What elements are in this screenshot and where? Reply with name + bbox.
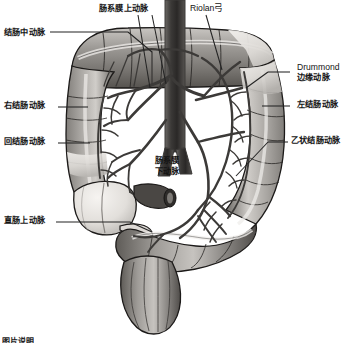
label-inferior-mesenteric-line2: 下动脉 bbox=[155, 167, 180, 177]
label-inferior-mesenteric-line1: 肠系膜 bbox=[155, 156, 180, 166]
figure-footer-caption: 图片说明 bbox=[2, 335, 34, 343]
label-left-colic-artery: 左结肠动脉 bbox=[297, 100, 338, 110]
rectum bbox=[121, 256, 181, 334]
label-riolan-arch: Riolan弓 bbox=[190, 3, 223, 13]
sigmoid-artery-vessel bbox=[208, 196, 230, 216]
label-superior-rectal-artery: 直肠上动脉 bbox=[4, 216, 45, 226]
terminal-ileum-stump bbox=[134, 184, 176, 208]
label-drummond-line2: 边缘动脉 bbox=[297, 73, 330, 83]
figure-canvas: 右结肠动脉 结肠中动脉 回结肠动脉 直肠上动脉 肠系膜上动脉 Riolan弓 D… bbox=[0, 0, 348, 343]
label-drummond-line1: Drummond bbox=[297, 62, 340, 72]
label-superior-mesenteric-artery: 肠系膜上动脉 bbox=[99, 4, 148, 14]
label-ileocolic-artery: 回结肠动脉 bbox=[4, 137, 45, 147]
label-middle-colic-artery: 结肠中动脉 bbox=[4, 28, 45, 38]
label-right-colic-artery: 右结肠动脉 bbox=[4, 101, 45, 111]
label-sigmoid-artery: 乙状结肠动脉 bbox=[291, 136, 340, 146]
